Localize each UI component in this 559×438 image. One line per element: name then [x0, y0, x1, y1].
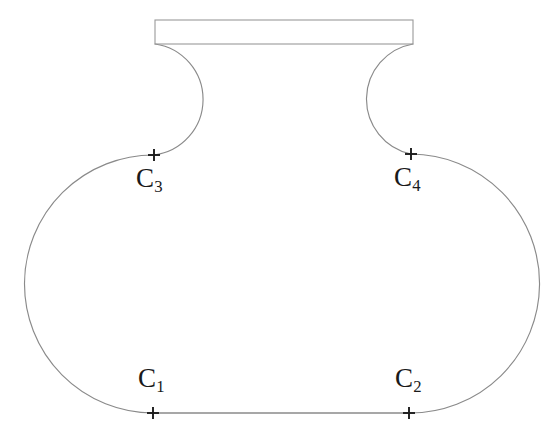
point-label-c2-letter: C — [395, 363, 413, 393]
point-label-c3-letter: C — [136, 163, 154, 193]
cross-marker-c4 — [405, 148, 417, 160]
point-label-c4: C4 — [394, 164, 420, 191]
point-label-c4-subscript: 4 — [412, 176, 420, 195]
point-label-c3: C3 — [136, 165, 162, 192]
rim-rectangle — [155, 20, 413, 44]
point-label-c2: C2 — [395, 365, 421, 392]
vase-construction-figure: C1 C2 C3 C4 — [0, 0, 559, 438]
cross-marker-c1 — [147, 407, 159, 419]
point-label-c3-subscript: 3 — [154, 177, 162, 196]
cross-marker-c3 — [148, 149, 160, 161]
point-label-c1: C1 — [138, 365, 164, 392]
point-label-c2-subscript: 2 — [413, 377, 421, 396]
figure-canvas — [0, 0, 559, 438]
vase-outline-path — [24, 44, 539, 413]
point-label-c1-letter: C — [138, 363, 156, 393]
cross-marker-c2 — [403, 407, 415, 419]
point-label-c4-letter: C — [394, 162, 412, 192]
point-label-c1-subscript: 1 — [156, 377, 164, 396]
construction-point-markers — [147, 148, 417, 419]
